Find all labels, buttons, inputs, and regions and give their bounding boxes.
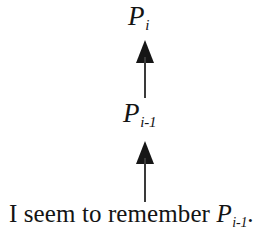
premise-lead-text: I seem to remember [9, 200, 216, 227]
premise-var-p: P [216, 200, 231, 227]
node-label-p-i-minus-1-base: P [123, 98, 140, 128]
node-label-p-i-minus-1: Pi-1 [123, 100, 156, 130]
implication-chain-diagram: Pi Pi-1 I seem to remember Pi-1. [0, 0, 280, 243]
premise-statement: I seem to remember Pi-1. [9, 200, 277, 231]
lower-arrow-icon [136, 141, 154, 202]
node-label-p-i: Pi [128, 3, 149, 33]
arrow-shaft [144, 158, 146, 202]
premise-period: . [247, 200, 253, 227]
node-label-p-i-subscript: i [145, 17, 149, 33]
node-label-p-i-minus-1-subscript: i-1 [140, 114, 156, 130]
upper-arrow-icon [136, 40, 154, 98]
node-label-p-i-base: P [128, 1, 145, 31]
premise-var-subscript: i-1 [232, 215, 247, 230]
arrow-shaft [144, 57, 146, 98]
